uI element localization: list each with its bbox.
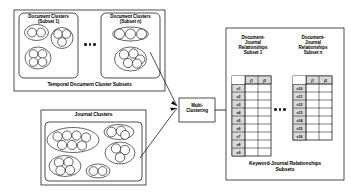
document-cluster-subset-1-label: Document Clusters (Subset 1) (23, 14, 74, 24)
table-subset-1-row-label: v5 (237, 119, 241, 123)
table-subset-1-row-label: v8 (237, 143, 241, 147)
table-subset-1-row-label: v4 (237, 111, 241, 115)
table-subset-n-row-label: v10 (297, 87, 303, 91)
table-subset-n-row-label: v16 (297, 135, 303, 139)
relationships-table-subset-1-title: Document- Journal Relationships Subset 1 (230, 35, 276, 56)
relationships-tables-ellipsis (274, 108, 286, 111)
journal-cluster-group-5 (86, 164, 110, 178)
journal-clusters-label: Journal Clusters (49, 112, 138, 118)
document-cluster-subset-n-label: Document Clusters (Subset n) (105, 14, 156, 24)
table-subset-1-row-label: v6 (237, 127, 241, 131)
table-subset-n-row-label: v11 (297, 95, 303, 99)
cluster-subsetn-group-2 (115, 47, 147, 71)
diagram-canvas: j1j2v1v2v3v4v5v6v7v8v9j1j2v10v11v12v13v1… (0, 0, 351, 194)
table-subset-n-row-label: v13 (297, 111, 303, 115)
table-subset-1-column-header: j1 (249, 79, 253, 83)
journal-cluster-group-1 (47, 128, 99, 153)
table-subset-n-column-header: j1 (310, 79, 314, 83)
relationships-table-subset-n-title: Document- Journal Relationships Subset n (290, 35, 336, 56)
table-subset-n-column-header: j2 (323, 79, 327, 83)
table-subset-n-row-label: v14 (297, 119, 303, 123)
cluster-subset1-group-2 (51, 28, 73, 49)
temporal-subsets-ellipsis (84, 43, 96, 46)
journal-cluster-group-4 (49, 156, 81, 177)
multi-clustering-node-label[interactable]: Multi- Clustering (181, 103, 213, 113)
table-subset-n-row-label: v15 (297, 127, 303, 131)
table-subset-1-row-label: v7 (237, 135, 241, 139)
cluster-subset1-group-3 (25, 47, 51, 69)
table-subset-1-row-label: v9 (237, 151, 241, 155)
table-subset-n-row-label: v12 (297, 103, 303, 107)
cluster-subset1-group-1 (25, 25, 49, 41)
temporal-panel-caption: Temporal Document Cluster Subsets (20, 82, 159, 88)
table-subset-1-row-label: v1 (237, 87, 241, 91)
journal-cluster-group-3 (105, 142, 135, 164)
table-subset-1-column-header: j2 (262, 79, 266, 83)
cluster-subsetn-group-1 (113, 27, 149, 41)
journal-cluster-group-2 (104, 125, 134, 140)
relationships-panel-caption: Keyword-Journal Relationships Subsets (232, 161, 338, 172)
table-subset-1-row-label: v3 (237, 103, 241, 107)
table-subset-1-row-label: v2 (237, 95, 241, 99)
